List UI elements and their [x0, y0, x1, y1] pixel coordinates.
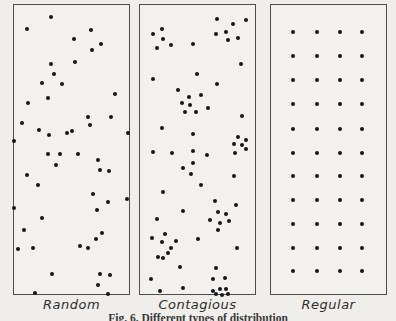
dot [244, 18, 248, 22]
dot [86, 246, 90, 250]
dot [155, 46, 159, 50]
dot [213, 199, 217, 203]
dot [291, 246, 295, 250]
dot [166, 251, 170, 255]
dot [20, 121, 24, 125]
dot [180, 101, 184, 105]
dot [47, 133, 51, 137]
dot [240, 114, 244, 118]
panel-label-regular: Regular [270, 297, 387, 312]
dot [239, 62, 243, 66]
dot [50, 272, 54, 276]
dot [12, 139, 16, 143]
dot [191, 132, 195, 136]
dot [226, 292, 230, 296]
dot [291, 269, 295, 273]
dot [216, 210, 220, 214]
dot [49, 62, 53, 66]
dot [216, 228, 220, 232]
dot [170, 151, 174, 155]
dot [224, 212, 228, 216]
dot [338, 151, 342, 155]
dot [291, 151, 295, 155]
dot [174, 239, 178, 243]
dot [181, 286, 185, 290]
panel-random [13, 4, 130, 295]
dot [199, 93, 203, 97]
dot [315, 54, 319, 58]
dot [94, 237, 98, 241]
dot [208, 218, 212, 222]
dot [95, 208, 99, 212]
dot [181, 166, 185, 170]
dot [235, 246, 239, 250]
dot [108, 273, 112, 277]
dot [126, 131, 130, 135]
dot [215, 17, 219, 21]
dot [72, 37, 76, 41]
dot [315, 174, 319, 178]
dot [360, 102, 364, 106]
dot [125, 197, 129, 201]
dot [315, 78, 319, 82]
dot [73, 60, 77, 64]
dot [49, 15, 53, 19]
dot [160, 27, 164, 31]
dot [236, 135, 240, 139]
dot [338, 78, 342, 82]
dot [226, 38, 230, 42]
dot [315, 246, 319, 250]
dot [206, 106, 210, 110]
dot [156, 255, 160, 259]
panel-label-random: Random [13, 297, 130, 312]
dot [25, 173, 29, 177]
dot [163, 232, 167, 236]
dot [106, 200, 110, 204]
dot [223, 276, 227, 280]
dot [205, 153, 209, 157]
dot [183, 110, 187, 114]
dot [291, 54, 295, 58]
dot [224, 30, 228, 34]
dot [88, 123, 92, 127]
dot [233, 151, 237, 155]
dot [315, 102, 319, 106]
dot [224, 287, 228, 291]
dot [25, 27, 29, 31]
dot [232, 174, 236, 178]
dot [151, 150, 155, 154]
dot [161, 256, 165, 260]
dot [338, 222, 342, 226]
dot [360, 222, 364, 226]
dot [155, 217, 159, 221]
dot [52, 72, 56, 76]
dot [160, 126, 164, 130]
dot [58, 152, 62, 156]
dot [76, 152, 80, 156]
dot [291, 198, 295, 202]
dot [40, 81, 44, 85]
dot [150, 236, 154, 240]
dot [109, 115, 113, 119]
dot [161, 37, 165, 41]
dot [178, 265, 182, 269]
dot [199, 183, 203, 187]
panel-regular [270, 4, 387, 295]
dot [188, 103, 192, 107]
dot [291, 78, 295, 82]
dot [360, 198, 364, 202]
dot [26, 101, 30, 105]
dot [236, 36, 240, 40]
dot [234, 203, 238, 207]
dot [96, 283, 100, 287]
dot [360, 269, 364, 273]
dot [31, 246, 35, 250]
dot [315, 151, 319, 155]
dot [22, 228, 26, 232]
dot [113, 92, 117, 96]
dot [106, 292, 110, 296]
dot [86, 115, 90, 119]
dot [315, 30, 319, 34]
dot [91, 192, 95, 196]
dot [12, 206, 16, 210]
